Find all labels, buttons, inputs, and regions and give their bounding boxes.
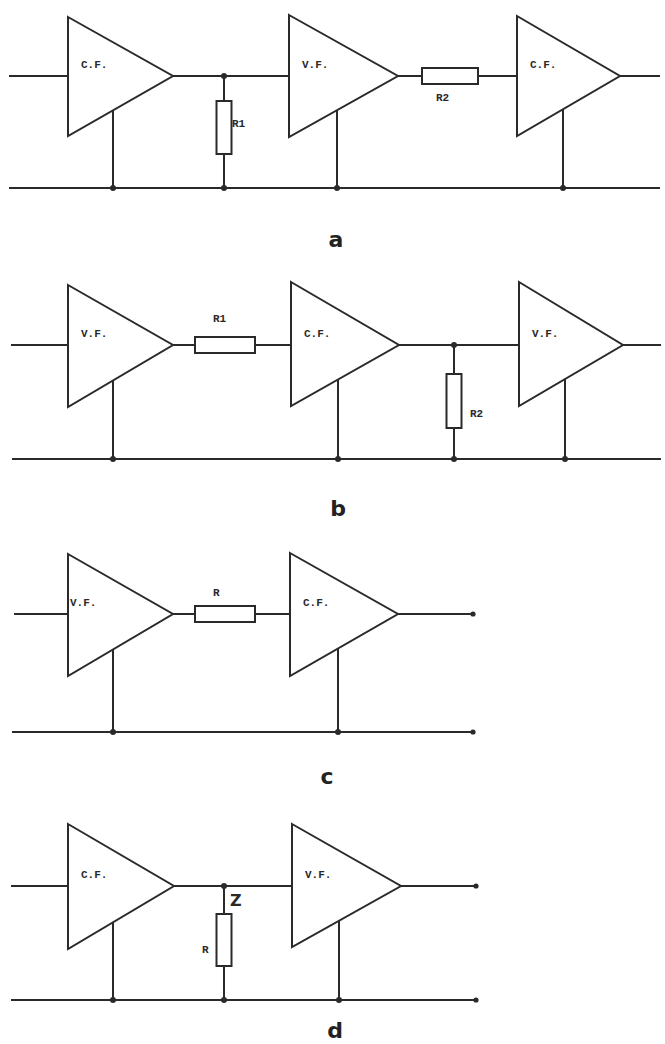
shunt-resistor-r1: R1 [217,73,246,191]
amplifier-label: C.F. [303,597,329,609]
amplifier-triangle-icon [290,553,398,676]
amplifier-cf: C.F. [517,16,620,191]
junction-dot [221,997,227,1003]
junction-dot [451,456,457,462]
junction-dot [336,997,342,1003]
resistor-label: R1 [232,118,246,130]
junction-dot [221,73,227,79]
circuit-panel-a: C.F.V.F.C.F.R2R1a [10,15,659,252]
amplifier-cf: C.F. [68,824,174,1003]
junction-dot [110,729,116,735]
amplifier-vf: V.F. [292,824,401,1003]
resistor-icon [422,68,478,84]
resistor-label: R2 [470,408,483,420]
series-resistor-r2: R2 [422,68,478,104]
amplifier-triangle-icon [68,824,174,949]
amplifier-triangle-icon [68,17,173,136]
series-resistor-r: R [195,587,255,622]
resistor-label: R [213,587,220,599]
amplifier-triangle-icon [68,285,173,407]
junction-dot [335,456,341,462]
amplifier-label: V.F. [81,328,107,340]
circuit-diagram: C.F.V.F.C.F.R2R1aV.F.C.F.V.F.R1R2bV.F.C.… [0,0,665,1044]
amplifier-triangle-icon [519,282,623,406]
panel-caption: d [327,1018,343,1043]
shunt-resistor-r: R [202,883,232,1003]
series-resistor-r1: R1 [195,313,255,353]
resistor-icon [447,374,462,428]
resistor-icon [195,606,255,622]
amplifier-triangle-icon [517,16,620,136]
resistor-label: R1 [213,313,227,325]
amplifier-label: V.F. [532,328,558,340]
output-terminal-dot [473,883,478,888]
amplifier-label: C.F. [81,869,107,881]
amplifier-triangle-icon [292,824,401,947]
resistor-label: R [202,944,209,956]
junction-dot [221,883,227,889]
amplifier-label: C.F. [304,328,330,340]
junction-dot [335,729,341,735]
amplifier-cf: C.F. [68,17,173,191]
panel-caption: a [329,227,344,252]
circuit-panel-d: C.F.V.F.RZd [12,824,479,1043]
resistor-icon [217,101,232,154]
amplifier-vf: V.F. [289,15,398,191]
circuit-panel-b: V.F.C.F.V.F.R1R2b [12,282,660,521]
junction-dot [451,342,457,348]
amplifier-label: V.F. [70,597,96,609]
shunt-resistor-r2: R2 [447,342,484,462]
amplifier-label: C.F. [81,59,107,71]
amplifier-vf: V.F. [519,282,623,462]
output-terminal-dot [470,611,475,616]
resistor-label: R2 [436,92,449,104]
amplifier-label: V.F. [302,59,328,71]
amplifier-triangle-icon [289,15,398,137]
junction-dot [221,185,227,191]
amplifier-cf: C.F. [291,282,399,462]
circuit-panel-c: V.F.C.F.Rc [13,553,476,789]
panel-caption: c [320,764,333,789]
amplifier-cf: C.F. [290,553,398,735]
junction-dot [560,185,566,191]
junction-dot [110,997,116,1003]
amplifier-vf: V.F. [68,285,173,462]
junction-dot [110,456,116,462]
ground-terminal-dot [473,997,478,1002]
junction-dot [334,185,340,191]
amplifier-vf: V.F. [68,554,173,735]
resistor-icon [217,914,232,966]
node-label: Z [230,891,242,910]
amplifier-label: C.F. [530,59,556,71]
ground-terminal-dot [470,729,475,734]
amplifier-triangle-icon [68,554,173,676]
junction-dot [110,185,116,191]
panel-caption: b [330,496,346,521]
resistor-icon [195,337,255,353]
amplifier-triangle-icon [291,282,399,406]
junction-dot [562,456,568,462]
amplifier-label: V.F. [305,869,331,881]
